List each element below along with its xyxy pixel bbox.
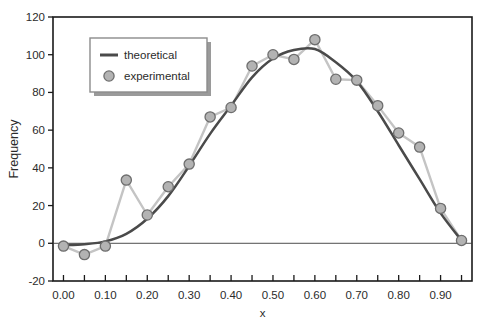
- x-axis-tick-label: 0.60: [304, 289, 326, 301]
- experimental-data-point: [456, 235, 466, 245]
- experimental-data-point: [415, 142, 425, 152]
- x-axis-tick-label: 0.50: [262, 289, 284, 301]
- y-axis-tick-label: 100: [26, 49, 45, 61]
- experimental-data-point: [247, 61, 257, 71]
- experimental-data-point: [373, 101, 383, 111]
- legend-label-experimental: experimental: [124, 70, 190, 82]
- experimental-data-point: [121, 175, 131, 185]
- experimental-data-point: [289, 54, 299, 64]
- experimental-data-point: [435, 203, 445, 213]
- x-axis-title: x: [260, 307, 266, 319]
- y-axis-tick-label: -20: [28, 275, 45, 287]
- experimental-data-point: [205, 112, 215, 122]
- x-axis-tick-label: 0.00: [52, 289, 74, 301]
- x-axis-tick-label: 0.30: [178, 289, 200, 301]
- legend-label-theoretical: theoretical: [124, 49, 177, 61]
- experimental-data-point: [163, 182, 173, 192]
- x-axis-tick-label: 0.70: [346, 289, 368, 301]
- experimental-data-point: [58, 241, 68, 251]
- legend-swatch-experimental: [104, 71, 114, 81]
- y-axis-tick-label: 80: [32, 86, 45, 98]
- y-axis-title: Frequency: [7, 119, 21, 179]
- experimental-data-point: [394, 128, 404, 138]
- experimental-data-point: [310, 35, 320, 45]
- legend-box: [90, 38, 207, 92]
- experimental-data-point: [79, 250, 89, 260]
- experimental-data-point: [268, 50, 278, 60]
- y-axis-tick-label: 60: [32, 124, 45, 136]
- x-axis-tick-label: 0.40: [220, 289, 242, 301]
- x-axis-tick-label: 0.80: [387, 289, 409, 301]
- y-axis-tick-label: 40: [32, 162, 45, 174]
- y-axis-tick-label: 0: [39, 237, 45, 249]
- experimental-data-point: [352, 75, 362, 85]
- y-axis-tick-label: 20: [32, 200, 45, 212]
- experimental-data-point: [142, 210, 152, 220]
- y-axis-tick-label: 120: [26, 11, 45, 23]
- experimental-data-point: [100, 241, 110, 251]
- experimental-data-point: [331, 74, 341, 84]
- experimental-data-point: [184, 159, 194, 169]
- figure-container: -200204060801001200.000.100.200.300.400.…: [0, 0, 489, 336]
- experimental-data-point: [226, 102, 236, 112]
- x-axis-tick-label: 0.10: [94, 289, 116, 301]
- x-axis-tick-label: 0.20: [136, 289, 158, 301]
- frequency-distribution-chart: -200204060801001200.000.100.200.300.400.…: [0, 0, 489, 336]
- x-axis-tick-label: 0.90: [429, 289, 451, 301]
